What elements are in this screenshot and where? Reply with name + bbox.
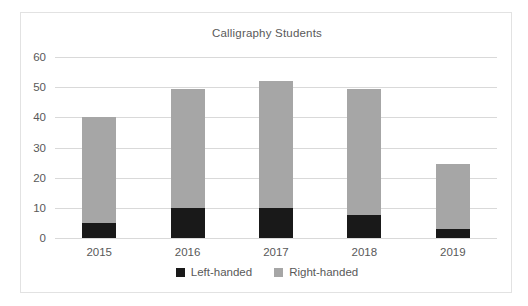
legend-item-left-handed[interactable]: Left-handed — [176, 266, 252, 278]
bar-segment-right-handed[interactable] — [436, 164, 470, 229]
bar-segment-left-handed[interactable] — [259, 208, 293, 238]
plot-area: 60 50 40 30 20 10 0 2015 — [55, 57, 497, 238]
bar-group-2017[interactable]: 2017 — [232, 57, 320, 238]
bar-stack[interactable] — [82, 117, 116, 238]
bar-group-2019[interactable]: 2019 — [409, 57, 497, 238]
legend-label-right-handed: Right-handed — [289, 266, 358, 278]
bar-segment-right-handed[interactable] — [347, 89, 381, 216]
bar-segment-left-handed[interactable] — [436, 229, 470, 238]
xtick-label-2017: 2017 — [232, 246, 320, 258]
bar-stack[interactable] — [347, 89, 381, 238]
ytick-label-10: 10 — [33, 202, 46, 214]
chart-container: Calligraphy Students 60 50 40 30 20 10 0 — [20, 12, 512, 293]
xtick-label-2019: 2019 — [409, 246, 497, 258]
bar-segment-right-handed[interactable] — [259, 81, 293, 208]
ytick-label-0: 0 — [40, 232, 46, 244]
bar-stack[interactable] — [436, 164, 470, 238]
legend-label-left-handed: Left-handed — [191, 266, 252, 278]
xtick-label-2016: 2016 — [143, 246, 231, 258]
legend-item-right-handed[interactable]: Right-handed — [274, 266, 358, 278]
bar-segment-left-handed[interactable] — [82, 223, 116, 238]
bar-segment-right-handed[interactable] — [82, 117, 116, 223]
chart-title: Calligraphy Students — [21, 27, 513, 39]
legend-swatch-left-handed — [176, 268, 185, 277]
xtick-label-2018: 2018 — [320, 246, 408, 258]
ytick-label-60: 60 — [33, 51, 46, 63]
bar-group-2015[interactable]: 2015 — [55, 57, 143, 238]
xtick-label-2015: 2015 — [55, 246, 143, 258]
ytick-label-50: 50 — [33, 81, 46, 93]
bar-group-2016[interactable]: 2016 — [143, 57, 231, 238]
bar-group-2018[interactable]: 2018 — [320, 57, 408, 238]
chart-legend: Left-handed Right-handed — [21, 266, 513, 278]
legend-swatch-right-handed — [274, 268, 283, 277]
ytick-label-20: 20 — [33, 172, 46, 184]
bar-segment-left-handed[interactable] — [347, 215, 381, 238]
axis-baseline-0: 0 — [55, 238, 497, 239]
ytick-label-30: 30 — [33, 142, 46, 154]
bar-stack[interactable] — [259, 81, 293, 238]
bar-segment-left-handed[interactable] — [171, 208, 205, 238]
bar-stack[interactable] — [171, 89, 205, 238]
bar-segment-right-handed[interactable] — [171, 89, 205, 208]
ytick-label-40: 40 — [33, 111, 46, 123]
